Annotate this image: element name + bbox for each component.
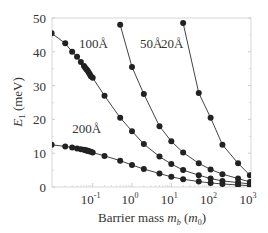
data-point (69, 49, 75, 55)
data-point (117, 158, 123, 164)
data-point (208, 180, 214, 186)
data-point (90, 75, 96, 81)
data-point (208, 115, 214, 121)
data-point (141, 91, 147, 97)
data-point (168, 138, 174, 144)
data-point (102, 93, 108, 99)
data-point (102, 153, 108, 159)
y-tick-label: 30 (33, 79, 46, 94)
data-point (62, 40, 68, 46)
data-point (196, 172, 202, 178)
x-axis-label: Barrier mass mb (m0) (98, 210, 206, 227)
y-tick-label: 50 (33, 11, 46, 26)
data-point (168, 161, 174, 167)
series-50A (117, 22, 253, 185)
data-point (90, 150, 96, 156)
series-label: 200Å (72, 121, 102, 136)
x-tick-label: 100 (122, 191, 139, 207)
data-point (235, 160, 241, 166)
data-point (117, 115, 123, 121)
data-point (62, 143, 68, 149)
data-point (180, 167, 186, 173)
y-tick-label: 10 (33, 146, 46, 161)
data-point (180, 20, 186, 26)
data-point (196, 160, 202, 166)
y-axis-label: E1 (meV) (10, 77, 27, 128)
data-point (156, 170, 162, 176)
data-point (180, 176, 186, 182)
data-point (180, 150, 186, 156)
data-point (208, 166, 214, 172)
x-tick-label: 10-1 (81, 191, 101, 207)
y-tick-label: 40 (33, 45, 46, 60)
series-200A (49, 142, 253, 189)
series-20A (180, 20, 253, 178)
data-point (219, 142, 225, 148)
chart: 01020304050 10-1100101102103 20Å50Å100Å2… (0, 0, 268, 233)
data-point (168, 174, 174, 180)
series-label: 100Å (79, 36, 109, 51)
y-tick-label: 0 (40, 180, 47, 195)
data-point (74, 54, 80, 60)
data-point (129, 64, 135, 70)
x-tick-label: 103 (239, 191, 256, 207)
data-point (129, 128, 135, 134)
data-point (196, 90, 202, 96)
x-tick-label: 102 (200, 191, 217, 207)
data-point (196, 179, 202, 185)
series-label: 50Å (140, 36, 163, 51)
data-point (219, 181, 225, 187)
data-point (141, 141, 147, 147)
data-point (129, 162, 135, 168)
data-point (247, 172, 253, 178)
data-point (247, 183, 253, 189)
data-point (141, 166, 147, 172)
x-tick-label: 101 (161, 191, 178, 207)
data-point (156, 123, 162, 129)
data-point (117, 22, 123, 28)
data-point (219, 171, 225, 177)
data-point (156, 154, 162, 160)
series-label: 20Å (161, 36, 184, 51)
y-tick-label: 20 (33, 112, 46, 127)
